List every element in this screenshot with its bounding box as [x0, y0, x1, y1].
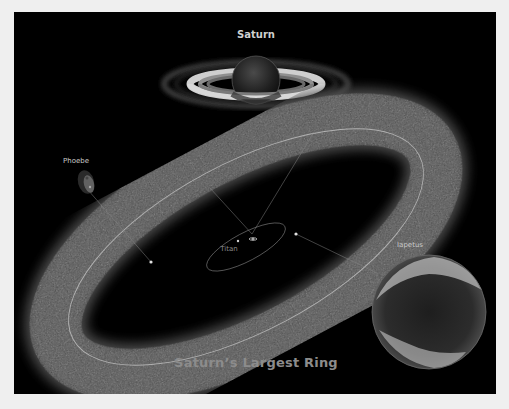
saturn-ring-illustration — [14, 12, 496, 394]
iapetus-orbit-marker — [294, 232, 297, 235]
phoebe-label: Phoebe — [63, 158, 89, 165]
figure-caption: Saturn’s Largest Ring — [174, 356, 338, 369]
iapetus-label: Iapetus — [397, 242, 423, 249]
iapetus-moon-icon — [372, 255, 486, 369]
phoebe-orbit-marker — [149, 260, 152, 263]
titan-label: Titan — [220, 246, 237, 253]
figure-title: Saturn — [237, 30, 275, 40]
titan-marker — [237, 240, 239, 242]
saturn-small-icon — [249, 237, 257, 240]
phoebe-moon-icon — [75, 168, 97, 195]
image-panel: Saturn Phoebe Titan Iapetus Saturn’s Lar… — [14, 12, 496, 394]
